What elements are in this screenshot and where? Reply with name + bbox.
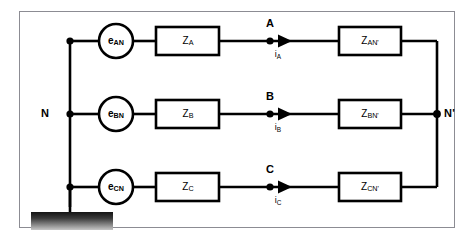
node-dot-c bbox=[266, 183, 273, 190]
node-label-a: A bbox=[266, 18, 274, 29]
load-label-c: ZCN' bbox=[361, 182, 379, 193]
node-dot-n-prime bbox=[433, 110, 441, 118]
impedance-label-a: ZA bbox=[183, 36, 194, 47]
current-label-a: iA bbox=[275, 50, 281, 60]
neutral-label-right: N' bbox=[444, 108, 455, 119]
node-label-b: B bbox=[266, 91, 274, 102]
neutral-label-left: N bbox=[41, 108, 49, 119]
current-arrow-a-icon bbox=[278, 35, 292, 48]
diagram-canvas: N N' eAN ZA A iA ZAN' eBN ZB B iB ZBN' e… bbox=[0, 0, 474, 246]
node-label-c: C bbox=[266, 164, 274, 175]
source-label-b: eBN bbox=[108, 109, 124, 120]
node-dot-b bbox=[266, 110, 273, 117]
current-label-c: iC bbox=[275, 196, 282, 206]
load-label-a: ZAN' bbox=[361, 36, 378, 47]
source-label-a: eAN bbox=[108, 36, 124, 47]
ground-bar bbox=[31, 212, 113, 230]
impedance-label-b: ZB bbox=[183, 109, 194, 120]
load-label-b: ZBN' bbox=[361, 109, 378, 120]
current-arrow-b-icon bbox=[278, 108, 292, 121]
current-label-b: iB bbox=[275, 123, 281, 133]
circuit-schematic bbox=[0, 0, 474, 246]
node-dot-a bbox=[266, 37, 273, 44]
junction-dot-n-a bbox=[66, 37, 73, 44]
source-label-c: eCN bbox=[108, 182, 124, 193]
impedance-label-c: ZC bbox=[182, 182, 193, 193]
current-arrow-c-icon bbox=[278, 181, 292, 194]
junction-dot-n-b bbox=[66, 110, 73, 117]
